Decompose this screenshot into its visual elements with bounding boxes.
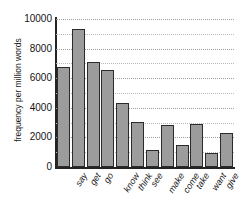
plot-area — [56, 19, 234, 167]
bar — [57, 67, 70, 167]
bar — [131, 122, 144, 167]
y-tick-label: 6000 — [30, 73, 52, 83]
y-tick-label: 8000 — [30, 44, 52, 54]
x-axis-tick-labels: saygetgoknowthinkseemakecometakewantgive… — [56, 169, 234, 204]
bar — [205, 153, 218, 167]
bar — [87, 62, 100, 167]
y-tick-label: 10000 — [24, 14, 52, 24]
y-tick-label: 4000 — [30, 103, 52, 113]
y-tick-label: 0 — [46, 162, 52, 172]
bar — [161, 125, 174, 167]
bar — [190, 124, 203, 167]
y-axis-tick-labels: 0200040006000800010000 — [0, 0, 54, 204]
bar — [176, 145, 189, 167]
bar — [101, 70, 114, 167]
bar-chart: frequency per million words 020004000600… — [0, 0, 241, 204]
x-tick-label: go — [102, 171, 116, 185]
bar — [220, 133, 233, 167]
bar — [146, 150, 159, 167]
y-tick-label: 2000 — [30, 132, 52, 142]
bars-layer — [56, 19, 234, 167]
bar — [72, 29, 85, 167]
bar — [116, 103, 129, 167]
